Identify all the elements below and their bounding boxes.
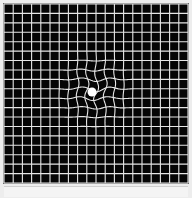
- figure-frame: [0, 0, 192, 198]
- grid-vertical-line: [76, 4, 79, 183]
- grid-vertical-line: [68, 4, 69, 183]
- grid-vertical-line: [103, 4, 107, 183]
- grid-vertical-line: [113, 4, 115, 183]
- fixation-dot: [88, 88, 97, 97]
- grid-vertical-line: [123, 4, 124, 183]
- bottom-strip: [4, 186, 188, 197]
- amsler-grid-lines: [0, 0, 192, 198]
